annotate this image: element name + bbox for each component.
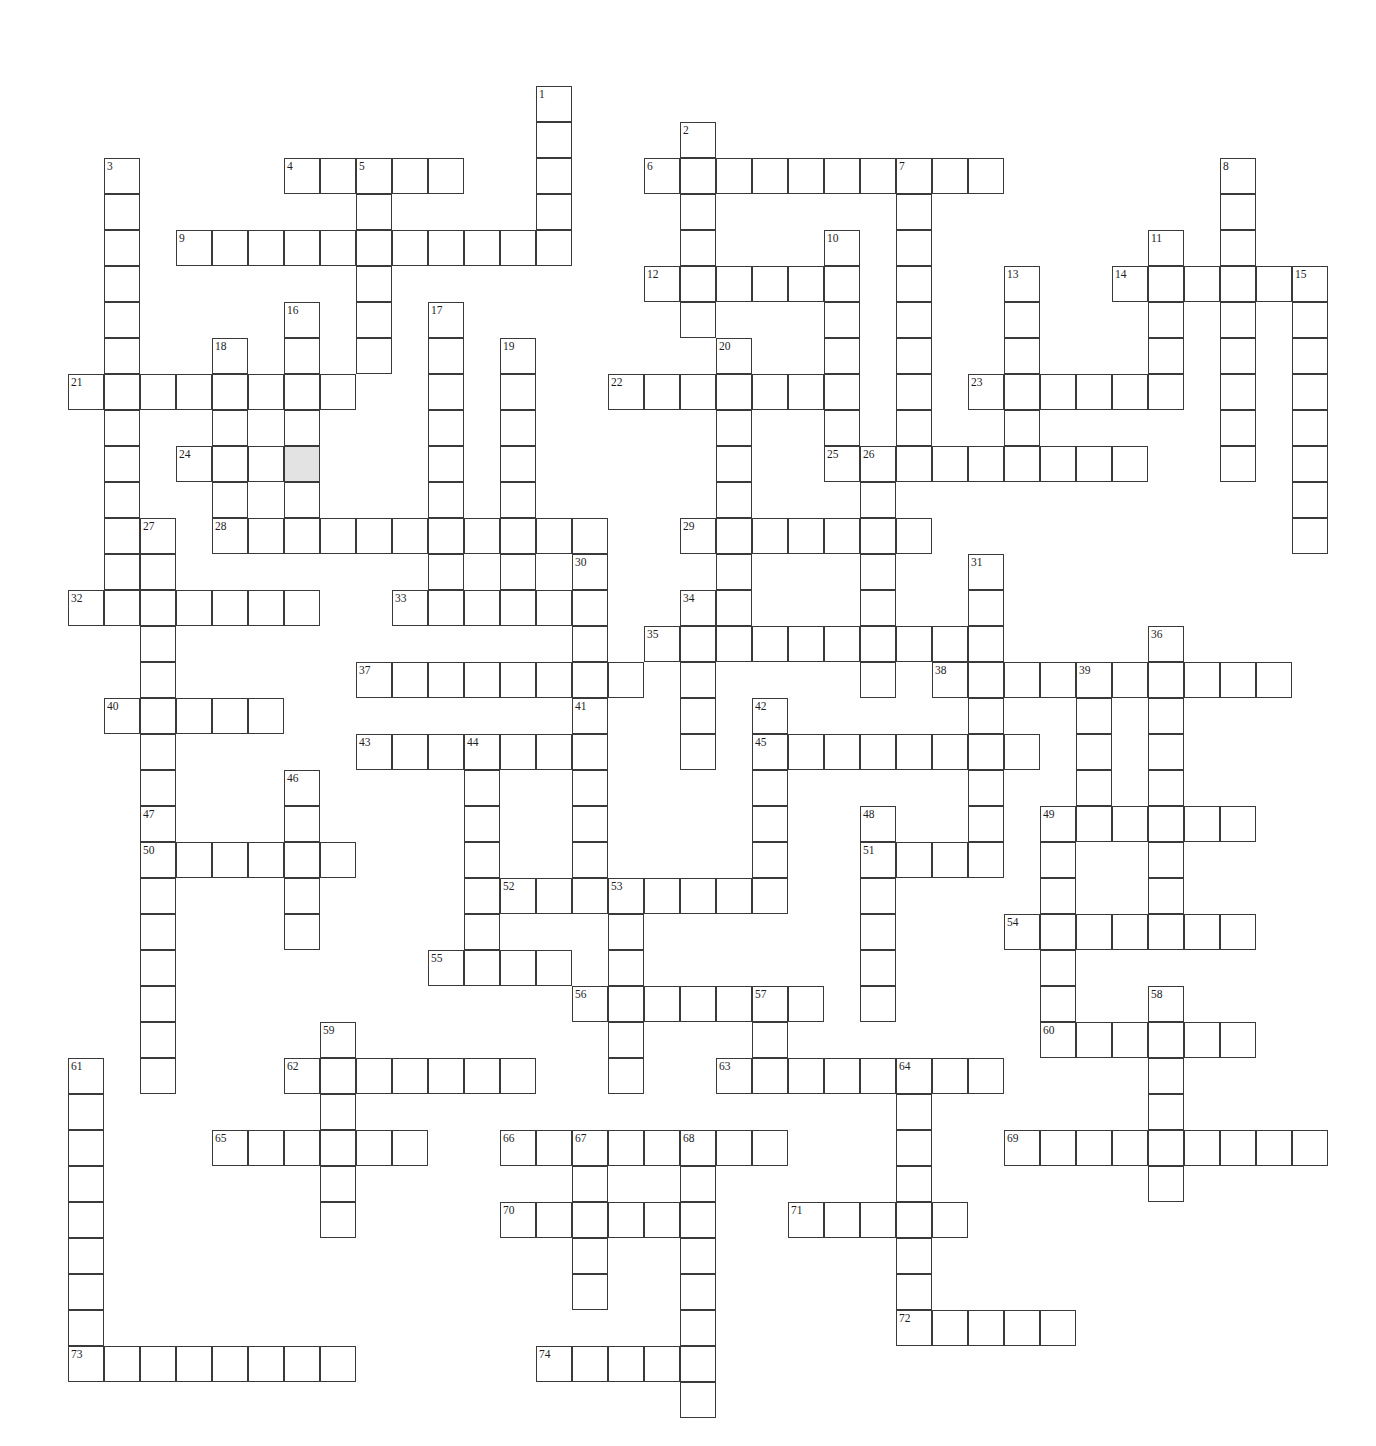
grid-cell[interactable] [104,374,140,410]
grid-cell[interactable] [284,1346,320,1382]
grid-cell[interactable] [968,446,1004,482]
grid-cell[interactable] [1220,338,1256,374]
grid-cell[interactable] [1040,842,1076,878]
grid-cell[interactable] [320,1058,356,1094]
grid-cell[interactable] [716,878,752,914]
grid-cell[interactable] [680,1202,716,1238]
grid-cell[interactable] [284,158,320,194]
grid-cell[interactable] [572,986,608,1022]
grid-cell[interactable] [1148,878,1184,914]
grid-cell[interactable] [1148,230,1184,266]
grid-cell[interactable] [464,842,500,878]
grid-cell[interactable] [428,482,464,518]
grid-cell[interactable] [1040,1130,1076,1166]
grid-cell[interactable] [860,1202,896,1238]
grid-cell[interactable] [644,1130,680,1166]
grid-cell[interactable] [1148,734,1184,770]
grid-cell[interactable] [1220,1022,1256,1058]
grid-cell[interactable] [1220,266,1256,302]
grid-cell[interactable] [572,1130,608,1166]
grid-cell[interactable] [608,986,644,1022]
grid-cell[interactable] [1148,302,1184,338]
grid-cell[interactable] [608,1202,644,1238]
grid-cell[interactable] [320,842,356,878]
grid-cell[interactable] [896,1310,932,1346]
grid-cell[interactable] [1292,374,1328,410]
grid-cell[interactable] [896,410,932,446]
grid-cell[interactable] [500,338,536,374]
grid-cell[interactable] [284,374,320,410]
grid-cell[interactable] [428,446,464,482]
grid-cell[interactable] [212,446,248,482]
grid-cell[interactable] [824,302,860,338]
grid-cell[interactable] [1112,1130,1148,1166]
grid-cell[interactable] [752,1058,788,1094]
grid-cell[interactable] [68,1238,104,1274]
grid-cell[interactable] [860,734,896,770]
grid-cell[interactable] [428,950,464,986]
grid-cell[interactable] [752,518,788,554]
grid-cell[interactable] [248,842,284,878]
grid-cell[interactable] [320,1202,356,1238]
grid-cell[interactable] [176,1346,212,1382]
grid-cell[interactable] [536,950,572,986]
grid-cell[interactable] [176,230,212,266]
grid-cell[interactable] [1148,986,1184,1022]
grid-cell[interactable] [968,158,1004,194]
grid-cell[interactable] [140,878,176,914]
grid-cell[interactable] [932,446,968,482]
grid-cell[interactable] [1004,410,1040,446]
grid-cell[interactable] [860,878,896,914]
grid-cell[interactable] [572,626,608,662]
grid-cell[interactable] [932,158,968,194]
grid-cell[interactable] [860,950,896,986]
grid-cell[interactable] [680,518,716,554]
grid-cell[interactable] [572,1238,608,1274]
grid-cell[interactable] [140,590,176,626]
grid-cell[interactable] [1112,1022,1148,1058]
grid-cell[interactable] [896,230,932,266]
grid-cell[interactable] [1220,158,1256,194]
grid-cell[interactable] [212,374,248,410]
grid-cell[interactable] [464,914,500,950]
grid-cell[interactable] [680,230,716,266]
grid-cell[interactable] [1256,266,1292,302]
grid-cell[interactable] [212,482,248,518]
grid-cell[interactable] [1220,410,1256,446]
grid-cell[interactable] [716,590,752,626]
grid-cell[interactable] [392,518,428,554]
grid-cell[interactable] [860,842,896,878]
grid-cell[interactable] [392,1058,428,1094]
grid-cell[interactable] [1040,446,1076,482]
grid-cell[interactable] [212,1346,248,1382]
grid-cell[interactable] [968,1310,1004,1346]
grid-cell[interactable] [1148,338,1184,374]
grid-cell[interactable] [464,230,500,266]
grid-cell[interactable] [464,950,500,986]
grid-cell[interactable] [608,878,644,914]
grid-cell[interactable] [896,1166,932,1202]
grid-cell[interactable] [896,734,932,770]
grid-cell[interactable] [1040,914,1076,950]
grid-cell[interactable] [392,734,428,770]
grid-cell[interactable] [716,482,752,518]
grid-cell[interactable] [680,1346,716,1382]
grid-cell[interactable] [1040,662,1076,698]
grid-cell[interactable] [860,662,896,698]
grid-cell[interactable] [320,1094,356,1130]
grid-cell[interactable] [788,734,824,770]
grid-cell[interactable] [716,158,752,194]
grid-cell[interactable] [104,266,140,302]
grid-cell[interactable] [680,194,716,230]
grid-cell[interactable] [608,374,644,410]
grid-cell[interactable] [104,698,140,734]
grid-cell[interactable] [1040,374,1076,410]
grid-cell[interactable] [500,950,536,986]
grid-cell[interactable] [896,842,932,878]
grid-cell[interactable] [68,1058,104,1094]
grid-cell[interactable] [1292,302,1328,338]
grid-cell[interactable] [464,878,500,914]
grid-cell[interactable] [1292,446,1328,482]
grid-cell[interactable] [572,842,608,878]
grid-cell[interactable] [104,446,140,482]
